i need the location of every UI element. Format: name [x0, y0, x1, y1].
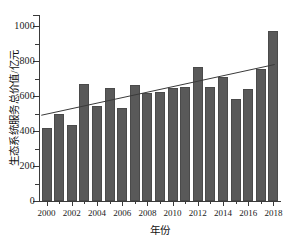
x-tick-2008	[147, 201, 148, 206]
bar-2012	[193, 67, 203, 201]
x-tick-label-2006: 2006	[113, 208, 131, 218]
bar-2009	[155, 92, 165, 201]
x-tick-2009	[160, 201, 161, 204]
bar-2018	[268, 31, 278, 201]
y-axis-title-wrap: 生态系统服务总价值/亿元	[11, 15, 25, 201]
bar-2011	[180, 87, 190, 201]
x-tick-2017	[261, 201, 262, 204]
x-tick-label-2018: 2018	[264, 208, 282, 218]
y-tick-label-0: 0	[30, 196, 35, 206]
x-tick-label-2008: 2008	[138, 208, 156, 218]
bar-2015	[231, 99, 241, 201]
x-tick-label-2016: 2016	[239, 208, 257, 218]
x-tick-label-2010: 2010	[164, 208, 182, 218]
x-tick-label-2012: 2012	[189, 208, 207, 218]
x-tick-2001	[59, 201, 60, 204]
x-tick-2006	[122, 201, 123, 206]
bar-2017	[256, 69, 266, 201]
bar-2013	[205, 87, 215, 201]
x-tick-2012	[198, 201, 199, 206]
x-tick-2000	[47, 201, 48, 206]
x-tick-2005	[110, 201, 111, 204]
x-tick-label-2014: 2014	[214, 208, 232, 218]
bar-2004	[92, 106, 102, 201]
x-tick-2003	[84, 201, 85, 204]
x-tick-2007	[135, 201, 136, 204]
bars-layer	[39, 15, 281, 201]
x-tick-2015	[236, 201, 237, 204]
bar-2016	[243, 89, 253, 201]
x-tick-2011	[185, 201, 186, 204]
bar-2010	[168, 88, 178, 201]
x-axis-title: 年份	[39, 222, 281, 237]
x-tick-2018	[273, 201, 274, 206]
bar-2005	[105, 88, 115, 201]
bar-2002	[67, 125, 77, 201]
x-tick-2002	[72, 201, 73, 206]
bar-2006	[117, 108, 127, 201]
bar-2003	[79, 84, 89, 201]
bar-chart: 02004006008001000 2000200220042006200820…	[0, 0, 288, 242]
x-tick-2014	[223, 201, 224, 206]
bar-2001	[54, 114, 64, 202]
x-tick-label-2002: 2002	[63, 208, 81, 218]
bar-2008	[142, 93, 152, 202]
x-tick-2010	[173, 201, 174, 206]
y-axis-title: 生态系统服务总价值/亿元	[6, 50, 21, 167]
bar-2014	[218, 77, 228, 201]
bar-2000	[42, 128, 52, 201]
x-tick-label-2004: 2004	[88, 208, 106, 218]
x-tick-2004	[97, 201, 98, 206]
x-tick-label-2000: 2000	[38, 208, 56, 218]
x-tick-2016	[248, 201, 249, 206]
x-tick-2013	[210, 201, 211, 204]
bar-2007	[130, 85, 140, 201]
